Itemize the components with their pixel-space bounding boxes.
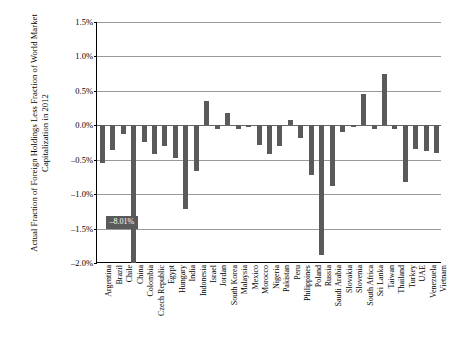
bar — [246, 125, 251, 127]
y-axis-title: Actual Fraction of Foreign Holdings Less… — [29, 8, 51, 258]
bar — [351, 125, 356, 126]
x-tick-label: Venezuela — [429, 265, 438, 298]
bar — [330, 125, 335, 186]
bar — [194, 125, 199, 170]
bar — [361, 94, 366, 125]
x-tick-label: South Korea — [230, 265, 239, 305]
x-tick-label: Argentina — [104, 265, 113, 297]
bar — [309, 125, 314, 175]
bar — [236, 125, 241, 128]
bar — [121, 125, 126, 133]
y-tick-label: 1.0% — [53, 51, 93, 61]
x-tick-label: Colombia — [146, 265, 155, 297]
x-tick-label: Hungary — [178, 265, 187, 293]
x-tick-label: Taiwan — [387, 265, 396, 288]
bar — [340, 125, 345, 132]
bar-value-annotation: –8.01% — [106, 216, 139, 229]
x-tick-label: Mexico — [251, 265, 260, 289]
x-axis-ticks: ArgentinaBrazilChileChinaColombiaCzech R… — [96, 265, 441, 343]
plot-area: 1.5%1.0%0.5%0.0%–0.5%–1.0%–1.5%–2.0% –8.… — [96, 22, 441, 263]
bar — [110, 125, 115, 150]
x-tick-label: Philippines — [303, 265, 312, 301]
x-tick-label: Slovenia — [355, 265, 364, 293]
x-tick-label: Slovakia — [345, 265, 354, 293]
bar — [267, 125, 272, 154]
y-tick-label: 1.5% — [53, 17, 93, 27]
x-tick-label: Vietnam — [439, 265, 448, 292]
bar — [392, 125, 397, 128]
x-tick-label: Saudi Arabia — [334, 265, 343, 307]
y-tick-label: –2.0% — [53, 258, 93, 268]
x-tick-label: Turkey — [408, 265, 417, 288]
bar — [162, 125, 167, 146]
x-tick-label: Peru — [293, 265, 302, 280]
y-tick-label: 0.0% — [53, 120, 93, 130]
x-tick-label: Chile — [125, 265, 134, 282]
bar — [257, 125, 262, 144]
y-tick-label: 0.5% — [53, 86, 93, 96]
bar — [152, 125, 157, 154]
bar — [403, 125, 408, 181]
y-tick-label: –1.5% — [53, 224, 93, 234]
x-tick-label: China — [136, 265, 145, 284]
bar — [173, 125, 178, 158]
bar — [204, 101, 209, 125]
x-tick-label: Thailand — [397, 265, 406, 293]
bar — [298, 125, 303, 137]
bar — [131, 125, 136, 263]
y-tick-label: –1.0% — [53, 189, 93, 199]
bar — [413, 125, 418, 149]
x-tick-label: Egypt — [167, 265, 176, 284]
x-tick-label: Malaysia — [240, 265, 249, 294]
bar — [288, 120, 293, 125]
x-tick-label: Poland — [314, 265, 323, 287]
bar — [277, 125, 282, 146]
x-tick-label: Russia — [324, 265, 333, 286]
x-tick-label: Jordan — [219, 265, 228, 286]
y-tick-label: –0.5% — [53, 155, 93, 165]
bar — [225, 113, 230, 125]
x-tick-label: Czech Republic — [157, 265, 166, 316]
bar — [319, 125, 324, 254]
bar — [142, 125, 147, 142]
y-tick-mark — [94, 263, 97, 264]
x-tick-label: Indonesia — [199, 265, 208, 296]
x-tick-label: Israel — [209, 265, 218, 283]
bar — [434, 125, 439, 153]
chart-root: Actual Fraction of Foreign Holdings Less… — [0, 0, 455, 343]
x-tick-label: UAE — [418, 265, 427, 281]
x-tick-label: South Africa — [366, 265, 375, 306]
bar — [100, 125, 105, 163]
x-tick-label: Brazil — [115, 265, 124, 285]
x-tick-label: India — [188, 265, 197, 281]
x-tick-label: Pakistan — [282, 265, 291, 292]
bar — [215, 125, 220, 129]
bar — [372, 125, 377, 129]
bar — [382, 74, 387, 126]
x-tick-label: Morocco — [261, 265, 270, 294]
x-tick-label: Sri Lanka — [376, 265, 385, 296]
bar — [183, 125, 188, 209]
x-tick-label: Nigeria — [272, 265, 281, 289]
bar — [424, 125, 429, 150]
bar-series — [97, 22, 441, 262]
